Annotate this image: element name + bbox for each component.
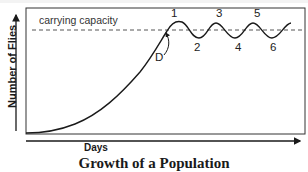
chart-title: Growth of a Population [0,155,308,172]
y-axis-label: Number of Flies [6,30,20,108]
point-label-3: 3 [216,7,222,19]
plot-frame [26,8,305,134]
point-label-1: 1 [171,7,177,19]
point-label-4: 4 [235,41,241,53]
point-label-6: 6 [270,41,276,53]
x-axis-label: Days [84,142,108,153]
point-label-d: D [155,51,163,63]
point-label-5: 5 [254,7,260,19]
d-pointer-arrow [164,33,169,55]
carrying-capacity-label: carrying capacity [39,14,118,26]
point-label-2: 2 [194,41,200,53]
population-curve [26,21,291,133]
